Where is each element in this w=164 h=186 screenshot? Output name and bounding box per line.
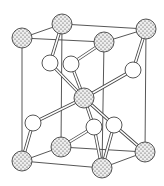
- open-atom: [25, 115, 41, 131]
- open-atom: [63, 56, 79, 72]
- dotted-atom: [136, 19, 156, 39]
- dotted-atom: [94, 32, 114, 52]
- dotted-atom: [135, 142, 155, 162]
- cell-edge: [62, 24, 146, 29]
- dotted-atom: [52, 14, 72, 34]
- cell-edge: [145, 29, 146, 152]
- dotted-atom: [12, 151, 32, 171]
- open-atom: [125, 62, 141, 78]
- open-atom: [106, 117, 122, 133]
- cell-edge: [61, 147, 145, 152]
- unit-cell-canvas: [0, 0, 164, 186]
- cell-edge: [61, 24, 62, 147]
- dotted-atom: [74, 88, 94, 108]
- open-atom: [86, 119, 102, 135]
- crystal-structure-diagram: [0, 0, 164, 186]
- open-atom: [42, 55, 58, 71]
- dotted-atom: [92, 158, 112, 178]
- dotted-atom: [51, 137, 71, 157]
- cell-edge: [22, 38, 104, 42]
- dotted-atom: [12, 28, 32, 48]
- cell-edge: [22, 161, 102, 168]
